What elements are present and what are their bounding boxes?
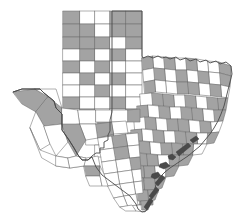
county-shaded <box>126 11 142 24</box>
county-plain <box>189 120 201 133</box>
county-plain <box>128 145 140 158</box>
county-plain <box>112 121 128 134</box>
county-shaded <box>80 73 95 85</box>
county-plain <box>166 81 178 94</box>
county-shaded <box>210 84 222 97</box>
county-shaded <box>200 121 212 133</box>
county-shaded <box>63 24 80 37</box>
county-plain <box>187 70 199 83</box>
county-shaded <box>153 130 165 143</box>
county-plain <box>95 73 110 85</box>
county-plain <box>132 169 142 182</box>
county-plain <box>63 73 80 85</box>
county-shaded <box>144 178 156 190</box>
county-plain <box>102 160 118 174</box>
county-shaded <box>152 93 164 106</box>
county-shaded <box>167 119 179 131</box>
county-shaded <box>63 97 80 109</box>
county-plain <box>95 49 110 61</box>
county-shaded <box>63 37 80 49</box>
county-plain <box>116 158 132 172</box>
county-plain <box>209 72 221 85</box>
county-shaded <box>166 166 179 177</box>
county-plain <box>174 95 186 107</box>
county-shaded <box>95 37 110 49</box>
county-plain <box>86 176 102 186</box>
county-plain <box>68 156 86 168</box>
county-plain <box>203 109 215 122</box>
county-shaded <box>95 85 110 97</box>
county-plain <box>126 49 142 61</box>
county-shaded <box>207 132 219 144</box>
county-shaded <box>147 154 159 166</box>
county-shaded <box>84 166 100 176</box>
county-plain <box>80 85 95 97</box>
county-plain <box>148 105 160 118</box>
county-shaded <box>178 119 190 132</box>
county-shaded <box>80 24 95 37</box>
county-plain <box>95 97 110 109</box>
county-shaded <box>145 117 157 130</box>
county-plain <box>126 73 142 85</box>
county-shaded <box>112 134 128 148</box>
county-shaded <box>63 11 80 24</box>
county-shaded <box>126 37 142 49</box>
county-plain <box>126 61 142 73</box>
county-shaded <box>80 37 95 49</box>
county-plain <box>126 85 142 97</box>
county-plain <box>63 85 80 97</box>
county-shaded <box>185 95 197 108</box>
county-shaded <box>181 107 193 120</box>
texas-county-map-figure <box>0 0 240 222</box>
county-shaded <box>159 106 171 119</box>
map-svg <box>0 0 240 222</box>
county-plain <box>140 93 153 106</box>
county-shaded <box>177 82 189 94</box>
county-plain <box>156 118 168 131</box>
county-shaded <box>188 82 200 95</box>
county-plain <box>78 110 96 124</box>
county-plain <box>143 68 155 82</box>
county-plain <box>80 97 95 109</box>
county-shaded <box>198 71 210 84</box>
county-plain <box>118 170 134 184</box>
county-plain <box>80 61 95 73</box>
county-plain <box>165 69 177 82</box>
county-shaded <box>114 146 130 160</box>
county-shaded <box>207 97 219 110</box>
county-plain <box>95 11 110 24</box>
county-shaded <box>126 24 142 37</box>
county-plain <box>100 148 116 162</box>
county-plain <box>170 107 182 119</box>
county-shaded <box>161 143 173 155</box>
county-plain <box>142 129 154 142</box>
county-plain <box>155 80 167 93</box>
county-plain <box>199 83 211 96</box>
county-plain <box>95 24 110 37</box>
county-shaded <box>144 80 156 94</box>
county-plain <box>196 96 208 109</box>
county-plain <box>164 131 176 143</box>
county-plain <box>80 11 95 24</box>
county-plain <box>62 108 80 126</box>
county-shaded <box>175 131 187 144</box>
county-shaded <box>176 70 188 82</box>
county-shaded <box>130 157 141 170</box>
county-shaded <box>154 68 166 81</box>
county-plain <box>126 133 139 146</box>
county-shaded <box>80 49 95 61</box>
county-shaded <box>139 141 151 154</box>
county-shaded <box>128 109 140 122</box>
county-shaded <box>63 61 80 73</box>
county-plain <box>63 49 80 61</box>
county-plain <box>150 142 162 155</box>
county-shaded <box>192 108 204 121</box>
county-shaded <box>95 61 110 73</box>
county-plain <box>112 110 128 122</box>
counties-layer <box>13 11 231 212</box>
county-shaded <box>163 94 175 107</box>
